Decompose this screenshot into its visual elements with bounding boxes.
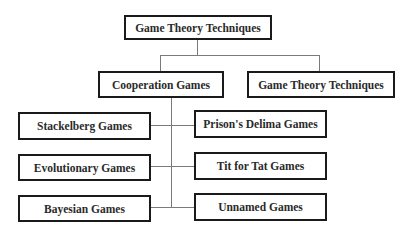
node-label: Game Theory Techniques [135, 22, 261, 34]
node-label: Evolutionary Games [34, 162, 135, 174]
node-label: Bayesian Games [44, 203, 125, 215]
node-tit-for-tat-games: Tit for Tat Games [194, 152, 327, 180]
connector-level2-horizontal [160, 55, 320, 56]
node-root-game-theory-techniques: Game Theory Techniques [124, 15, 272, 40]
connector-row-3 [150, 207, 194, 208]
connector-cooperation-trunk [171, 97, 172, 207]
connector-row-2 [150, 166, 194, 167]
connector-row-1 [150, 125, 194, 126]
node-prisons-delima-games: Prison's Delima Games [194, 110, 327, 138]
node-label: Tit for Tat Games [217, 160, 304, 172]
node-unnamed-games: Unnamed Games [194, 193, 327, 221]
node-cooperation-games: Cooperation Games [98, 71, 224, 98]
node-game-theory-techniques-secondary: Game Theory Techniques [247, 71, 395, 98]
node-label: Cooperation Games [112, 79, 210, 91]
connector-to-cooperation [160, 55, 161, 71]
node-label: Unnamed Games [218, 201, 303, 213]
connector-to-techniques [319, 55, 320, 71]
node-label: Prison's Delima Games [203, 118, 317, 130]
connector-root-down [197, 39, 198, 55]
node-label: Stackelberg Games [37, 120, 132, 132]
node-label: Game Theory Techniques [258, 79, 384, 91]
node-bayesian-games: Bayesian Games [18, 195, 151, 222]
node-evolutionary-games: Evolutionary Games [18, 154, 151, 181]
node-stackelberg-games: Stackelberg Games [18, 112, 151, 140]
